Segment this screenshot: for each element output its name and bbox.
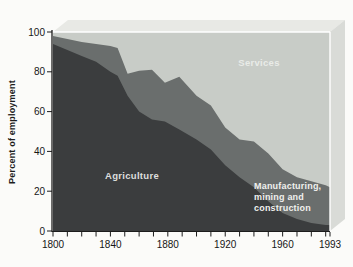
y-tick-label: 40: [34, 146, 46, 157]
y-tick-label: 80: [34, 66, 46, 77]
box-side-face: [330, 20, 345, 231]
box-top-face: [53, 20, 345, 32]
y-tick-label: 20: [34, 186, 46, 197]
employment-by-sector-figure: 180018401880192019601993020406080100 Per…: [0, 0, 353, 267]
y-tick-label: 0: [39, 226, 45, 237]
services-area-label: Services: [238, 57, 280, 68]
x-tick-label: 1840: [99, 239, 122, 250]
x-tick-label: 1800: [42, 239, 65, 250]
x-tick-label: 1920: [214, 239, 237, 250]
agriculture-area-label: Agriculture: [105, 170, 159, 181]
y-axis-title: Percent of employment: [7, 52, 19, 212]
x-tick-label: 1880: [157, 239, 180, 250]
x-tick-label: 1960: [272, 239, 295, 250]
manufacturing-area-label: Manufacturing, mining and construction: [254, 181, 321, 214]
y-tick-label: 60: [34, 106, 46, 117]
y-tick-label: 100: [28, 27, 45, 38]
chart-canvas: 180018401880192019601993020406080100: [0, 0, 353, 267]
x-tick-label: 1993: [319, 239, 342, 250]
